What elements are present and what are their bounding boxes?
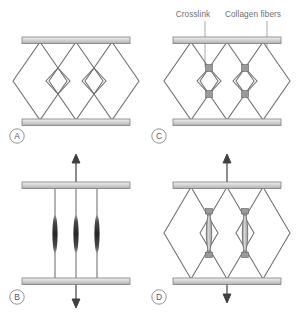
panel-a-letter-badge: A bbox=[10, 129, 24, 143]
panel-a-letter: A bbox=[14, 131, 20, 141]
crosslink-node bbox=[206, 209, 213, 214]
crosslink-node bbox=[242, 91, 249, 98]
stretched-crosslink-spindle bbox=[94, 215, 99, 253]
panel-a-bottom-plate bbox=[22, 119, 130, 126]
stretched-crosslink-lens bbox=[242, 212, 247, 254]
panel-c-letter-badge: C bbox=[152, 129, 166, 143]
panel-d-top-plate bbox=[173, 182, 281, 189]
annotation-label-collagen-fibers: Collagen fibers bbox=[225, 10, 281, 19]
crosslink-node bbox=[242, 65, 249, 72]
panel-d-letter-badge: D bbox=[152, 290, 166, 304]
collagen-crosslink-figure: Crosslink Collagen fibers A bbox=[0, 0, 301, 314]
crosslink-node bbox=[242, 252, 249, 257]
annotation-label-crosslink: Crosslink bbox=[176, 10, 211, 19]
panel-d-letter: D bbox=[156, 292, 162, 302]
panel-c-letter: C bbox=[156, 131, 162, 141]
stretched-crosslink-spindle bbox=[73, 215, 78, 253]
crosslink-node bbox=[206, 252, 213, 257]
panel-b-bottom-plate bbox=[22, 278, 130, 285]
panel-b-letter-badge: B bbox=[10, 290, 24, 304]
stretched-crosslink-spindle bbox=[52, 215, 57, 253]
crosslink-node bbox=[242, 209, 249, 214]
stretched-crosslink-lens bbox=[206, 212, 211, 254]
figure-canvas: Crosslink Collagen fibers A bbox=[0, 0, 301, 314]
panel-c-top-plate bbox=[173, 37, 281, 44]
crosslink-node bbox=[206, 65, 213, 72]
panel-b-top-plate bbox=[22, 182, 130, 189]
panel-d-bottom-plate bbox=[173, 278, 281, 285]
panel-c-bottom-plate bbox=[173, 119, 281, 126]
crosslink-node bbox=[206, 91, 213, 98]
panel-b-letter: B bbox=[14, 292, 20, 302]
panel-a-top-plate bbox=[22, 37, 130, 44]
